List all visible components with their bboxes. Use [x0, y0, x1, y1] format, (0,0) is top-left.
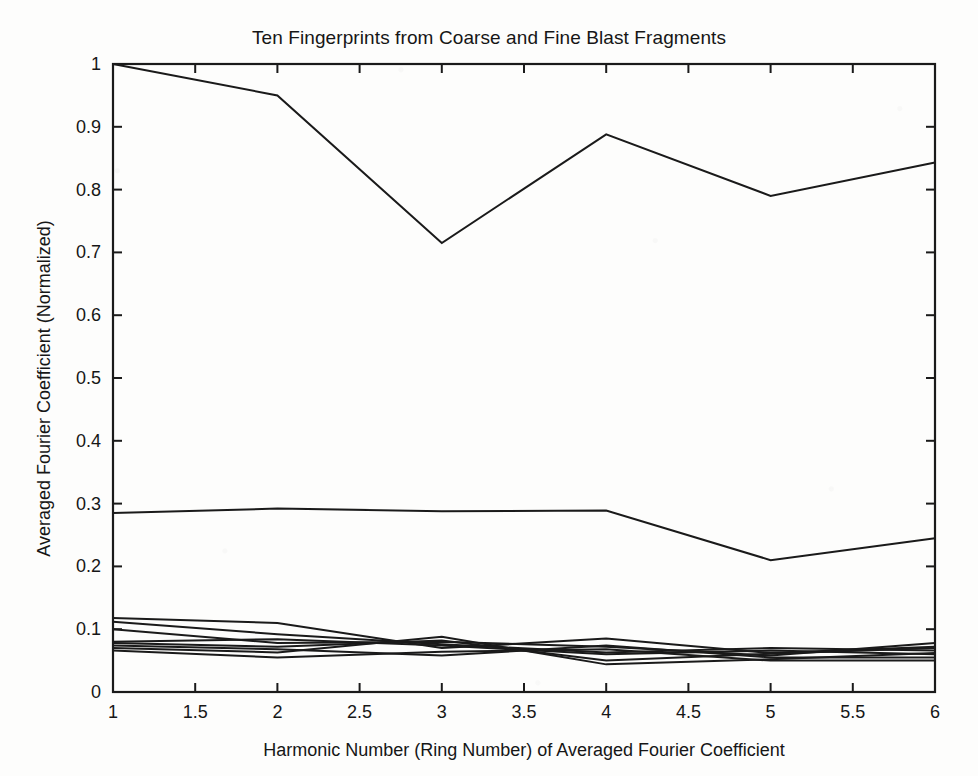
data-series-line — [113, 64, 935, 243]
x-tick-label: 3.5 — [511, 702, 536, 722]
x-tick-label: 1 — [108, 702, 118, 722]
y-tick-label: 0.4 — [76, 431, 101, 451]
axes-frame — [113, 64, 935, 692]
x-tick-label: 2 — [272, 702, 282, 722]
x-tick-label: 3 — [437, 702, 447, 722]
plot-area: 00.10.20.30.40.50.60.70.80.91 11.522.533… — [0, 0, 978, 776]
y-tick-label: 0.9 — [76, 117, 101, 137]
y-tick-label-group: 00.10.20.30.40.50.60.70.80.91 — [76, 54, 101, 702]
x-tick-label: 1.5 — [183, 702, 208, 722]
data-series-line — [113, 509, 935, 561]
y-tick-label: 0.3 — [76, 494, 101, 514]
data-series-group — [113, 64, 935, 664]
y-tick-label: 0.2 — [76, 556, 101, 576]
figure-canvas: Ten Fingerprints from Coarse and Fine Bl… — [0, 0, 978, 776]
x-tick-label: 5.5 — [840, 702, 865, 722]
y-tick-label: 0.7 — [76, 242, 101, 262]
x-tick-label: 5 — [766, 702, 776, 722]
y-tick-label: 0 — [91, 682, 101, 702]
y-tick-label: 1 — [91, 54, 101, 74]
x-tick-label: 4 — [601, 702, 611, 722]
x-tick-label-group: 11.522.533.544.555.56 — [108, 702, 940, 722]
x-tick-label: 4.5 — [676, 702, 701, 722]
x-tick-label: 6 — [930, 702, 940, 722]
y-tick-label: 0.6 — [76, 305, 101, 325]
tick-mark-group — [113, 64, 935, 692]
y-tick-label: 0.1 — [76, 619, 101, 639]
y-tick-label: 0.5 — [76, 368, 101, 388]
y-tick-label: 0.8 — [76, 180, 101, 200]
x-tick-label: 2.5 — [347, 702, 372, 722]
